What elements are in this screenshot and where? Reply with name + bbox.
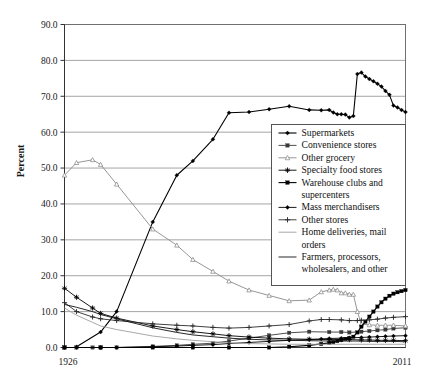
data-point-marker: [267, 107, 271, 111]
data-point-marker: [308, 330, 311, 333]
x-tick-label: 2011: [393, 357, 412, 367]
data-point-marker: [372, 310, 375, 313]
data-point-marker: [400, 289, 403, 292]
data-point-marker: [98, 162, 102, 166]
data-point-marker: [404, 110, 408, 114]
data-point-marker: [348, 331, 351, 334]
series-line: [65, 303, 406, 328]
data-point-marker: [396, 291, 399, 294]
data-point-marker: [384, 297, 387, 300]
legend-label: Convenience stores: [302, 139, 377, 150]
y-tick-label: 60.0: [41, 128, 58, 138]
axis-ticks: [61, 25, 65, 348]
y-tick-label: 80.0: [41, 56, 58, 66]
y-axis-tick-labels: 0.010.020.030.040.050.060.070.080.090.0: [41, 20, 58, 353]
legend-label: Other grocery: [302, 152, 356, 163]
data-point-marker: [380, 301, 383, 304]
legend-label: Mass merchandisers: [302, 201, 380, 212]
percent-of-food-sales-line-chart: 0.010.020.030.040.050.060.070.080.090.0 …: [0, 0, 421, 377]
legend-entry-11[interactable]: wholesalers, and other: [302, 263, 389, 274]
legend-entry-5[interactable]: supercenters: [302, 189, 350, 200]
legend-label: Farmers, processors,: [302, 251, 381, 262]
data-point-marker: [211, 269, 215, 273]
y-tick-label: 0.0: [46, 343, 58, 353]
data-point-marker: [319, 337, 323, 341]
data-point-marker: [404, 288, 407, 291]
legend-label: Supermarkets: [302, 127, 355, 138]
data-point-marker: [335, 112, 339, 116]
data-point-marker: [360, 330, 363, 333]
y-axis-title: Percent: [15, 144, 26, 177]
legend-label: wholesalers, and other: [302, 263, 389, 274]
x-axis-tick-labels: 19262011: [59, 357, 412, 367]
y-tick-label: 20.0: [41, 271, 58, 281]
data-point-marker: [151, 220, 155, 224]
legend-label: Other stores: [302, 214, 349, 225]
data-point-marker: [286, 181, 290, 185]
data-point-marker: [287, 331, 290, 334]
y-tick-label: 10.0: [41, 307, 58, 317]
data-point-marker: [328, 330, 331, 333]
data-point-marker: [175, 243, 179, 247]
data-point-marker: [267, 346, 270, 349]
legend-label: Warehouse clubs and: [302, 177, 383, 188]
data-point-marker: [376, 305, 379, 308]
data-point-marker: [227, 279, 231, 283]
data-point-marker: [388, 294, 391, 297]
data-point-marker: [391, 334, 395, 338]
y-tick-label: 90.0: [41, 20, 58, 30]
data-point-marker: [392, 292, 395, 295]
y-tick-label: 40.0: [41, 199, 58, 209]
data-point-marker: [360, 325, 363, 328]
legend-label: Specialty food stores: [302, 164, 383, 175]
data-point-marker: [356, 331, 359, 334]
y-tick-label: 50.0: [41, 163, 58, 173]
data-point-marker: [383, 334, 387, 338]
data-point-marker: [384, 328, 387, 331]
x-tick-label: 1926: [59, 357, 78, 367]
data-point-marker: [286, 144, 290, 148]
data-point-marker: [376, 329, 379, 332]
data-point-marker: [319, 108, 323, 112]
y-tick-label: 30.0: [41, 235, 58, 245]
data-point-marker: [391, 104, 395, 108]
data-point-marker: [404, 334, 408, 338]
data-point-marker: [227, 346, 230, 349]
y-tick-label: 70.0: [41, 92, 58, 102]
data-point-marker: [375, 335, 379, 339]
data-point-marker: [368, 329, 371, 332]
data-point-marker: [340, 330, 343, 333]
data-point-marker: [287, 345, 290, 348]
legend-label: Home deliveries, mail: [302, 226, 387, 237]
data-point-marker: [247, 288, 251, 292]
chart-container: 0.010.020.030.040.050.060.070.080.090.0 …: [0, 0, 421, 377]
data-point-marker: [247, 110, 251, 114]
legend-label: supercenters: [302, 189, 350, 200]
legend-entry-9[interactable]: orders: [302, 239, 326, 250]
data-point-marker: [287, 104, 291, 108]
data-point-marker: [355, 72, 359, 76]
chart-legend[interactable]: SupermarketsConvenience storesOther groc…: [272, 125, 406, 286]
legend-label: orders: [302, 239, 326, 250]
y-axis-title-text: Percent: [15, 144, 26, 177]
data-point-marker: [351, 114, 355, 118]
data-point-marker: [339, 112, 343, 116]
data-point-marker: [307, 108, 311, 112]
